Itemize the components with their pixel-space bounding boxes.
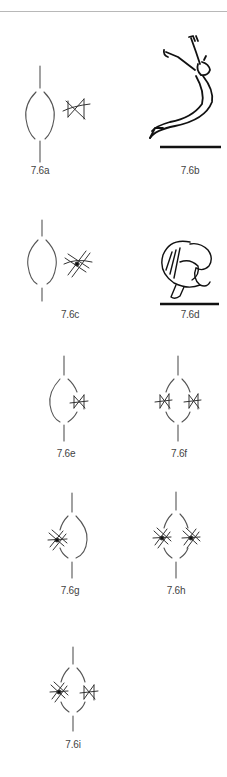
figure-label: 7.6i [43, 739, 103, 750]
oval-asterisk-and-sign-symbol-icon [0, 0, 227, 777]
